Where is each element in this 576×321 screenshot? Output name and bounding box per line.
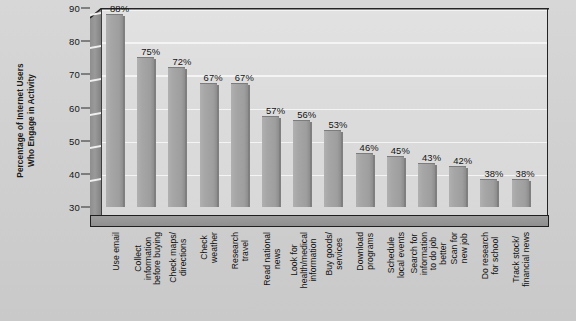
bar[interactable] [262,116,279,207]
x-axis-label-line: financial news [522,232,532,287]
x-axis-label-line: travel [241,232,251,269]
x-axis-label-slot: Check maps/directions [163,232,194,320]
x-axis-label-slot: Buy goods/services [319,232,350,320]
x-axis-label-slot: Scan fornew job [444,232,475,320]
bar[interactable] [324,130,341,207]
bar[interactable] [168,67,185,207]
x-axis-label[interactable]: Do researchfor school [481,232,500,279]
bar-value-label: 88% [110,3,129,14]
x-axis-label-line: directions [179,232,189,283]
y-axis-tick-mark [81,107,90,108]
y-axis-tick-mark [81,8,90,9]
bar[interactable] [293,120,310,207]
y-axis-tick-label: 40 [69,168,80,179]
bar-slot: 45% [382,8,413,207]
x-axis-label-line: Collect [133,232,143,285]
bar-value-label: 38% [516,168,535,179]
chart-figure: Percentage of Internet Users Who Engage … [0,0,576,321]
x-axis-label[interactable]: Buy goods/services [325,232,344,276]
x-axis-label-slot: Use email [101,232,132,320]
x-axis-label-line: weather [210,232,220,263]
bar-value-label: 57% [266,105,285,116]
bar[interactable] [106,14,123,207]
bar-value-label: 43% [422,152,441,163]
bar-value-label: 38% [484,168,503,179]
y-axis-tick-label: 30 [69,202,80,213]
bar[interactable] [480,179,497,207]
bar[interactable] [200,83,217,207]
bar-series: 88%75%72%67%67%57%56%53%46%45%43%42%38%3… [101,8,548,207]
bar-value-label: 46% [360,142,379,153]
x-axis-label-line: Use email [112,232,122,271]
y-axis-title-line-1: Percentage of Internet Users [16,63,27,177]
y-axis-tick-mark [81,207,90,208]
bar[interactable] [356,153,373,207]
x-axis-labels: Use emailCollectinformationbefore buying… [101,232,548,320]
x-axis-label-slot: Track stock/financial news [507,232,538,320]
x-axis-label-line: Look for [289,232,299,288]
x-axis-label[interactable]: Researchtravel [232,232,251,269]
x-axis-label[interactable]: Use email [112,232,122,271]
bar-slot: 42% [444,8,475,207]
bar-value-label: 67% [235,72,254,83]
bar-slot: 67% [195,8,226,207]
x-axis-label-line: news [273,232,283,286]
y-axis-ticks: 30405060708090 [46,0,90,240]
plot-area: 88%75%72%67%67%57%56%53%46%45%43%42%38%3… [90,8,549,227]
x-axis-label-slot: Search forinformationto do jobbetter [413,232,444,320]
bar-slot: 38% [507,8,538,207]
bar[interactable] [418,163,435,207]
x-axis-label-line: information [309,232,319,288]
bar-value-label: 72% [172,56,191,67]
y-axis-tick-label: 90 [69,3,80,14]
x-axis-label-line: services [335,232,345,276]
x-axis-label[interactable]: Checkweather [201,232,220,263]
x-axis-label-line: to do job [429,232,439,275]
x-axis-label-slot: Read nationalnews [257,232,288,320]
y-axis-tick-label: 60 [69,102,80,113]
x-axis-label[interactable]: Schedulelocal events [388,232,407,278]
bar-value-label: 75% [141,46,160,57]
x-axis-label[interactable]: Downloadprograms [357,232,376,271]
bar-slot: 56% [288,8,319,207]
y-axis-tick-mark [81,41,90,42]
bar-value-label: 53% [328,119,347,130]
bar-slot: 88% [101,8,132,207]
bar-value-label: 45% [391,145,410,156]
bar-slot: 67% [226,8,257,207]
x-axis-label[interactable]: Scan fornew job [450,232,469,264]
bar-slot: 72% [163,8,194,207]
x-axis-label[interactable]: Search forinformationto do jobbetter [409,232,447,275]
y-axis-tick-label: 70 [69,69,80,80]
x-axis-label-line: programs [366,232,376,271]
axis-floor [90,215,549,227]
x-axis-label[interactable]: Check maps/directions [169,232,188,283]
x-axis-label[interactable]: Collectinformationbefore buying [133,232,162,285]
x-axis-label-line: Scan for [450,232,460,264]
x-axis-label-line: Search for [409,232,419,275]
bar[interactable] [137,57,154,207]
bar-slot: 53% [319,8,350,207]
bar[interactable] [449,166,466,207]
y-axis-tick-mark [81,74,90,75]
x-axis-label[interactable]: Track stock/financial news [513,232,532,287]
y-axis-title: Percentage of Internet Users Who Engage … [6,0,46,240]
bar-slot: 46% [351,8,382,207]
x-axis-label-line: before buying [153,232,163,285]
bar[interactable] [231,83,248,207]
x-axis-label-slot: Look forhealth/medicalinformation [288,232,319,320]
bar-value-label: 67% [204,72,223,83]
bar[interactable] [387,156,404,207]
bar[interactable] [512,179,529,207]
y-axis-title-line-2: Who Engage in Activity [26,63,37,177]
bar-slot: 75% [132,8,163,207]
x-axis-label[interactable]: Read nationalnews [263,232,282,286]
bar-value-label: 56% [297,109,316,120]
y-axis-tick-label: 50 [69,135,80,146]
x-axis-label-line: local events [397,232,407,278]
bar-slot: 43% [413,8,444,207]
x-axis-label[interactable]: Look forhealth/medicalinformation [289,232,318,288]
x-axis-label-line: new job [460,232,470,264]
x-axis-label-line: Read national [263,232,273,286]
bar-slot: 38% [475,8,506,207]
